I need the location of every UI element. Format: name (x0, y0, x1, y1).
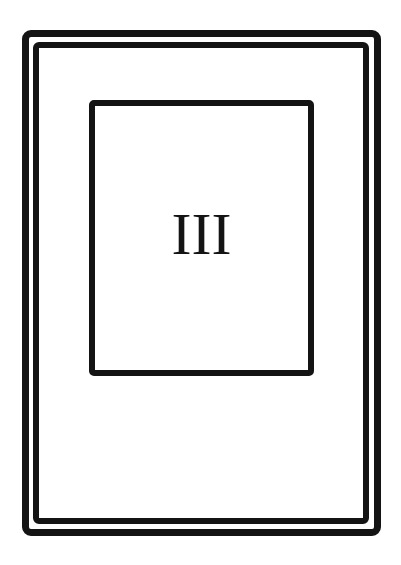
roman-numeral-label: III (89, 100, 314, 376)
